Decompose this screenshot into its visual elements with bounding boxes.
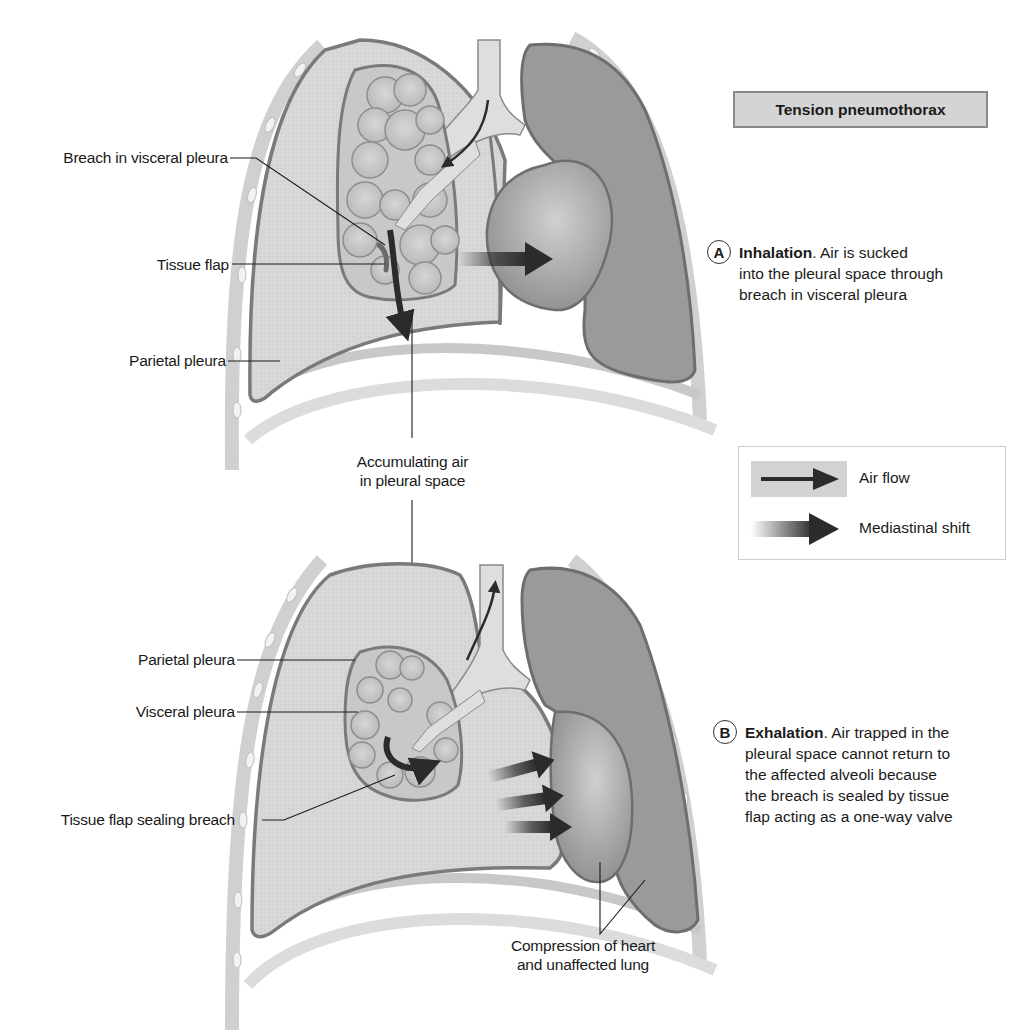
- label-tissue-flap: Tissue flap: [157, 255, 229, 274]
- step-a-text: Inhalation. Air is sucked into the pleur…: [739, 242, 943, 305]
- label-accumulating-air-line2: in pleural space: [340, 471, 485, 490]
- step-a-heading: Inhalation: [739, 244, 812, 261]
- legend-item-air-flow: Air flow: [739, 461, 1005, 497]
- step-a-line-2: into the pleural space through: [739, 263, 943, 284]
- panel-a-illustration: [228, 38, 715, 592]
- air-flow-arrow-icon: [751, 461, 847, 497]
- figure-title-text: Tension pneumothorax: [775, 101, 945, 119]
- label-tissue-flap-sealing-breach: Tissue flap sealing breach: [61, 810, 235, 829]
- step-b-line-4: the breach is sealed by tissue: [745, 785, 953, 806]
- legend: Air flow Mediastinal shift: [738, 446, 1006, 560]
- step-b-text: Exhalation. Air trapped in the pleural s…: [745, 722, 953, 827]
- step-b-line-3: the affected alveoli because: [745, 764, 953, 785]
- label-accumulating-air: Accumulating air in pleural space: [340, 452, 485, 490]
- mediastinal-shift-arrow-icon: [751, 511, 847, 547]
- legend-label-air-flow: Air flow: [859, 469, 910, 487]
- step-a-line-3: breach in visceral pleura: [739, 284, 943, 305]
- step-b-line-2: pleural space cannot return to: [745, 743, 953, 764]
- step-b-line-1: . Air trapped in the: [823, 724, 949, 741]
- label-compression-line1: Compression of heart: [478, 936, 688, 955]
- label-parietal-pleura-a: Parietal pleura: [129, 351, 226, 370]
- step-a-line-1: . Air is sucked: [812, 244, 908, 261]
- label-accumulating-air-line1: Accumulating air: [340, 452, 485, 471]
- label-breach-visceral-pleura: Breach in visceral pleura: [63, 148, 228, 167]
- step-a-badge: A: [707, 240, 731, 264]
- legend-label-mediastinal-shift: Mediastinal shift: [859, 519, 970, 537]
- label-compression-line2: and unaffected lung: [478, 955, 688, 974]
- figure-title: Tension pneumothorax: [733, 91, 988, 128]
- label-compression: Compression of heart and unaffected lung: [478, 936, 688, 974]
- step-b-line-5: flap acting as a one-way valve: [745, 806, 953, 827]
- label-visceral-pleura: Visceral pleura: [136, 702, 235, 721]
- step-b-heading: Exhalation: [745, 724, 823, 741]
- step-b-badge: B: [713, 720, 737, 744]
- legend-item-mediastinal-shift: Mediastinal shift: [739, 511, 1005, 547]
- label-parietal-pleura-b: Parietal pleura: [138, 650, 235, 669]
